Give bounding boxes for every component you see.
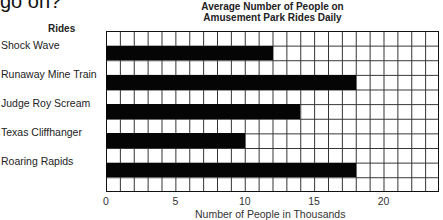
category-label: Roaring Rapids [1,155,73,167]
chart-title-line-2: Amusement Park Rides Daily [160,12,385,23]
chart-title-line-1: Average Number of People on [160,1,385,12]
x-tick-label: 5 [172,195,178,207]
category-label: Runaway Mine Train [1,68,97,80]
x-tick-label: 15 [308,195,320,207]
category-label: Texas Cliffhanger [1,126,82,138]
question-text-fragment: go on? [0,0,61,13]
y-axis-header: Rides [48,23,75,34]
category-label: Shock Wave [1,39,60,51]
chart-title: Average Number of People on Amusement Pa… [160,1,385,23]
bar [106,46,273,61]
bar [106,133,245,148]
category-label: Judge Roy Scream [1,97,90,109]
x-axis-title: Number of People in Thousands [195,208,345,220]
x-tick-label: 10 [239,195,251,207]
x-tick-label: 20 [378,195,390,207]
bar [106,75,356,90]
x-tick-label: 0 [103,195,109,207]
bar [106,104,300,119]
bar [106,163,356,178]
